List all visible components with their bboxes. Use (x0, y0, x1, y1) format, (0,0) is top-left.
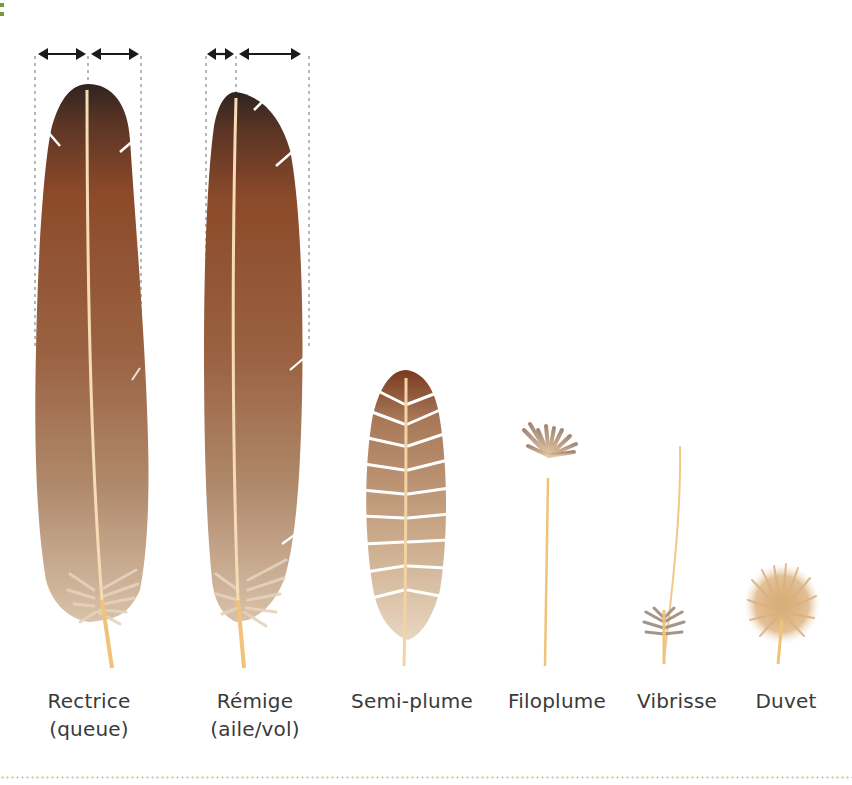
remige-feather (204, 92, 304, 668)
label-semi-plume: Semi-plume (337, 687, 487, 715)
label-line: Rectrice (14, 687, 164, 715)
label-line: (aile/vol) (180, 715, 330, 743)
label-rectrice: Rectrice (queue) (14, 687, 164, 743)
double-arrow-icon (91, 48, 139, 60)
label-remige: Rémige (aile/vol) (180, 687, 330, 743)
label-duvet: Duvet (711, 687, 852, 715)
double-arrow-icon (239, 48, 301, 60)
label-line: Rémige (180, 687, 330, 715)
feather-types-figure (0, 0, 852, 785)
dotted-divider (0, 776, 852, 779)
vibrisse-feather (644, 446, 684, 664)
label-line: Duvet (711, 687, 852, 715)
semi-plume-feather (362, 370, 450, 666)
duvet-feather (744, 564, 820, 664)
double-arrow-icon (207, 48, 234, 60)
label-line: Semi-plume (337, 687, 487, 715)
label-line: (queue) (14, 715, 164, 743)
filoplume-feather (524, 424, 576, 666)
double-arrow-icon (38, 48, 86, 60)
rectrice-feather (35, 84, 148, 668)
